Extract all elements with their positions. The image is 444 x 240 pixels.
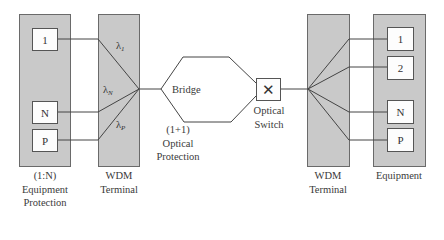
optical-switch: ✕ — [256, 78, 281, 101]
equipment-protection-label: (1:N) Equipment Protection — [10, 169, 80, 210]
cross-icon: ✕ — [262, 81, 275, 99]
right-wdm-terminal-label: WDM Terminal — [303, 169, 353, 196]
lambda-n-label: λN — [103, 84, 113, 97]
wire-right-2 — [308, 67, 387, 89]
left-wdm-terminal-label: WDM Terminal — [94, 169, 144, 196]
bridge-label: Bridge — [172, 83, 201, 97]
wire-left-1 — [58, 39, 139, 89]
lambda-1-label: λ1 — [116, 40, 125, 53]
wire-left-n — [58, 89, 139, 112]
right-equipment-label: Equipment — [367, 169, 431, 183]
lambda-p-label: λP — [116, 119, 125, 132]
wire-right-n — [308, 89, 387, 112]
wire-right-p — [308, 89, 387, 140]
optical-switch-label: Optical Switch — [248, 104, 290, 131]
optical-protection-label: (1+1) Optical Protection — [148, 123, 208, 164]
wire-right-1 — [308, 39, 387, 89]
wire-left-p — [58, 89, 139, 140]
